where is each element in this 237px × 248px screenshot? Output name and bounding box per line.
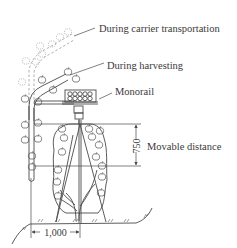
label-movable-distance: Movable distance xyxy=(147,141,222,152)
dimension-750 xyxy=(34,124,141,166)
carrier-basket xyxy=(62,90,98,104)
dimension-1000-label: 1,000 xyxy=(44,227,67,238)
apples-in-tree xyxy=(53,124,105,199)
apples-on-boom xyxy=(21,67,79,170)
dimension-750-label: 750 xyxy=(131,139,142,154)
leader-monorail xyxy=(99,93,112,99)
label-monorail: Monorail xyxy=(115,86,154,97)
monorail-diagram: 750 1,000 During carrier transportation … xyxy=(0,0,237,248)
leader-harvesting xyxy=(70,63,104,75)
label-carrier-transport: During carrier transportation xyxy=(99,23,220,34)
leader-carrier-transport xyxy=(74,28,95,36)
support-frame xyxy=(56,120,106,223)
grass-marks xyxy=(22,213,149,230)
label-harvesting: During harvesting xyxy=(107,60,184,71)
drive-unit xyxy=(74,106,83,124)
